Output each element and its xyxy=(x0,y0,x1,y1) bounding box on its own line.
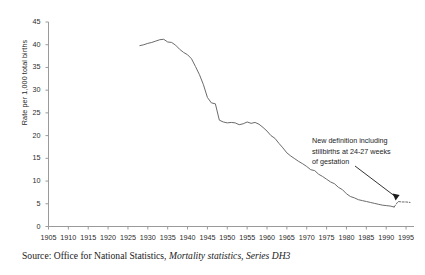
annotation-line-2: stillbirths at 24-27 weeks xyxy=(312,147,424,158)
source-note: Source: Office for National Statistics, … xyxy=(22,250,290,261)
y-tick-label-15: 15 xyxy=(19,153,41,162)
new-definition-annotation: New definition including stillbirths at … xyxy=(312,136,424,168)
y-tick-label-20: 20 xyxy=(19,131,41,140)
y-tick-label-0: 0 xyxy=(19,222,41,231)
y-tick-label-10: 10 xyxy=(19,176,41,185)
axis-lines xyxy=(49,22,415,227)
y-tick-label-30: 30 xyxy=(19,85,41,94)
annotation-leader-line xyxy=(355,166,397,198)
x-tick-label-1995: 1995 xyxy=(393,233,419,242)
series-line-1 xyxy=(394,202,410,207)
series-line-0 xyxy=(140,39,394,207)
stillbirth-rate-chart: Rate per 1,000 total births 051015202530… xyxy=(0,0,425,275)
annotation-arrow xyxy=(355,166,400,201)
annotation-line-3: of gestation xyxy=(312,157,424,168)
y-tick-label-45: 45 xyxy=(19,17,41,26)
source-publication: Mortality statistics, Series DH3 xyxy=(169,250,291,261)
source-prefix: Source: Office for National Statistics, xyxy=(22,250,169,261)
y-tick-label-35: 35 xyxy=(19,62,41,71)
y-tick-label-5: 5 xyxy=(19,199,41,208)
annotation-line-1: New definition including xyxy=(312,136,424,147)
y-tick-label-25: 25 xyxy=(19,108,41,117)
data-series-group xyxy=(140,39,410,207)
annotation-arrowhead xyxy=(393,194,400,201)
y-tick-label-40: 40 xyxy=(19,40,41,49)
